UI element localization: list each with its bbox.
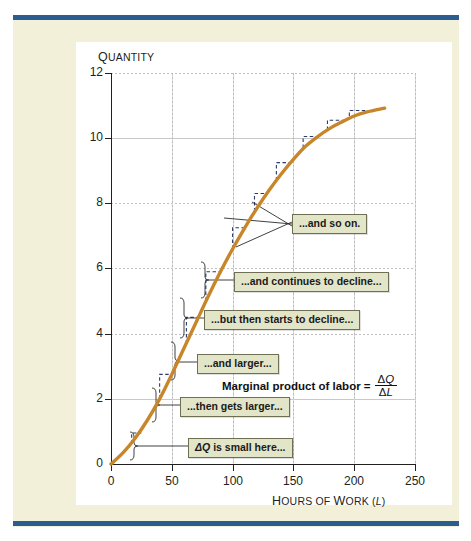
brace-3 <box>180 298 188 338</box>
callout-and-larger: ...and larger... <box>197 354 279 374</box>
chart-panel: QQuantityUANTITY HOURS OF WORK (L) <box>76 42 452 505</box>
leader-line-6 <box>224 218 292 224</box>
callout-delta-q-small: ΔQ ΔQ is small here...is small here... <box>188 438 293 458</box>
formula-numerator: ΔQ <box>375 373 398 386</box>
callout-then-gets-larger: ...then gets larger... <box>180 397 290 417</box>
callout-but-then-starts: ...but then starts to decline... <box>204 310 360 330</box>
formula-fraction: ΔQΔL <box>375 373 398 398</box>
top-rule <box>13 15 459 20</box>
figure-root: QQuantityUANTITY HOURS OF WORK (L) <box>0 0 471 541</box>
plot-area: QQuantityUANTITY HOURS OF WORK (L) <box>76 42 452 505</box>
callout-and-so-on: ...and so on. <box>292 214 367 234</box>
formula-label: Marginal product of labor = <box>222 380 371 392</box>
formula-denominator: ΔL <box>375 386 398 398</box>
brace-4 <box>201 262 209 298</box>
marginal-product-formula: Marginal product of labor =ΔQΔL <box>222 374 397 399</box>
bottom-rule <box>13 521 459 526</box>
callout-and-continues: ...and continues to decline... <box>234 272 389 292</box>
leader-lines <box>130 202 292 460</box>
